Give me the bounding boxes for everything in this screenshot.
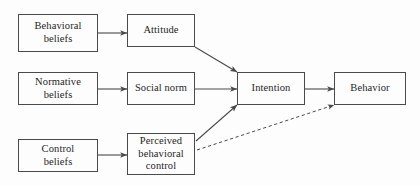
node-label-control-beliefs: Control beliefs [40, 143, 77, 169]
node-social-norm: Social norm [127, 72, 195, 105]
theory-of-planned-behavior-diagram: Behavioral beliefsAttitudeNormative beli… [0, 0, 420, 186]
node-label-attitude: Attitude [141, 24, 180, 37]
edge-attitude-to-intention [195, 47, 237, 72]
node-label-intention: Intention [250, 82, 293, 95]
edge-perceived-behavioral-control-to-intention [196, 105, 237, 141]
node-label-normative-beliefs: Normative beliefs [33, 76, 83, 102]
edge-perceived-behavioral-control-to-behavior [197, 105, 334, 150]
node-label-social-norm: Social norm [133, 82, 189, 95]
node-behavioral-beliefs: Behavioral beliefs [18, 14, 98, 52]
node-label-perceived-behavioral-control: Perceived behavioral control [136, 135, 185, 173]
node-label-behavioral-beliefs: Behavioral beliefs [32, 20, 83, 46]
node-intention: Intention [237, 72, 305, 105]
node-behavior: Behavior [334, 72, 406, 105]
node-label-behavior: Behavior [348, 82, 391, 95]
node-normative-beliefs: Normative beliefs [18, 72, 98, 105]
node-perceived-behavioral-control: Perceived behavioral control [127, 133, 195, 175]
node-control-beliefs: Control beliefs [18, 139, 98, 172]
node-attitude: Attitude [127, 14, 195, 47]
